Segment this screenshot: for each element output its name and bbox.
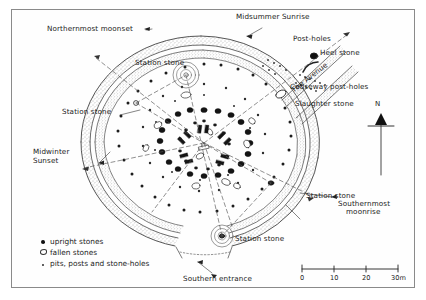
scale-tick-10: 10 [330,274,338,282]
label-southernmost-moonrise-line2: moonrise [346,208,380,216]
label-midwinter-sunset: MidwinterSunset [33,148,93,165]
label-heel-stone: Heel stone [320,49,360,58]
outer-bank [81,36,319,246]
label-midsummer-sunrise: Midsummer Sunrise [236,13,310,22]
scale-bar [302,265,398,272]
southern-entrance-gap [176,247,232,258]
label-southernmost-moonrise: Southernmostmoonrise [338,200,410,216]
figure-canvas: Northernmost moonset Midsummer Sunrise P… [0,0,426,300]
aubrey-holes [117,63,293,214]
legend-item-fallen-stones: fallen stones [36,247,149,258]
fallen-stone-icon [36,249,50,257]
sarsen-circle [157,107,253,178]
label-slaughter-stone: Slaughter stone [295,100,354,109]
label-causeway-post-holes: Causeway post-holes [290,83,368,92]
upright-stone-icon [36,238,50,246]
legend-label-pits-posts: pits, posts and stone-holes [50,259,149,268]
label-station-stone-north: Station stone [135,59,184,68]
label-northernmost-moonset: Northernmost moonset [47,25,133,34]
scale-tick-0: 0 [300,274,304,282]
ditch-ring [95,50,306,233]
scale-tick-30m: 30m [391,274,406,282]
label-post-holes: Post-holes [293,35,331,44]
pit-post-icon [36,260,50,268]
label-midwinter-sunset-line2: Sunset [33,156,58,165]
legend: upright stones fallen stones pits, posts… [36,236,149,269]
label-southern-entrance: Southern entrance [183,275,252,284]
legend-label-fallen-stones: fallen stones [50,248,97,257]
north-arrow [368,113,394,175]
legend-label-upright-stones: upright stones [50,237,103,246]
label-station-stone-south: Station stone [235,235,284,244]
legend-item-upright-stones: upright stones [36,236,149,247]
legend-item-pits-posts: pits, posts and stone-holes [36,258,149,269]
compass-north-label: N [375,100,380,108]
scale-tick-20: 20 [362,274,370,282]
altar-stone [199,145,209,150]
label-station-stone-west: Station stone [62,108,111,117]
